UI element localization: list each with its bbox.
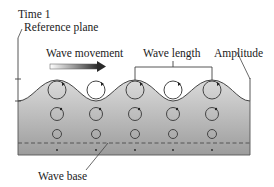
wave-movement-label: Wave movement — [46, 48, 123, 60]
water-body — [18, 80, 250, 155]
time-label: Time 1 — [18, 9, 51, 21]
wave-movement-arrow-shaft — [50, 64, 98, 69]
reference-pointer — [18, 29, 22, 38]
wave-base-label: Wave base — [38, 171, 87, 183]
wave-length-label: Wave length — [143, 48, 201, 60]
wave-movement-arrow-head — [97, 61, 106, 72]
wave-length-bracket — [135, 61, 212, 80]
reference-plane-label: Reference plane — [24, 22, 98, 34]
amplitude-label: Amplitude — [214, 48, 263, 60]
